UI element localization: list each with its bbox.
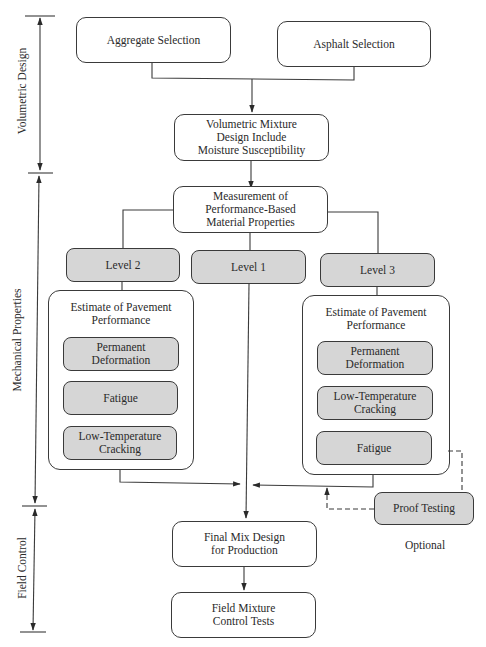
branch-level2: [123, 210, 174, 250]
volumetric-line-1: Volumetric Mixture: [198, 118, 306, 131]
phase-label-field-control: Field Control: [16, 533, 28, 603]
left-low-temperature-node: Low-Temperature Cracking: [63, 426, 177, 460]
phase-label-volumetric-design: Volumetric Design: [16, 46, 28, 136]
level-3-label: Level 3: [360, 264, 395, 277]
left-item-3-line-1: Low-Temperature: [79, 430, 162, 443]
aggregate-selection-node: Aggregate Selection: [76, 17, 231, 63]
left-item-1-line-1: Permanent: [92, 341, 151, 354]
level-3-node: Level 3: [320, 253, 435, 287]
left-item-1-line-2: Deformation: [92, 354, 151, 367]
branch-level3: [328, 212, 378, 255]
left-item-2-label: Fatigue: [103, 392, 138, 405]
proof-testing-node: Proof Testing: [374, 492, 474, 525]
asphalt-selection-node: Asphalt Selection: [277, 21, 431, 67]
dashed-proof-to-merge: [327, 488, 374, 509]
right-group-title-2: Performance: [326, 319, 427, 332]
right-group-title-1: Estimate of Pavement: [326, 306, 427, 319]
right-item-1-line-1: Permanent: [346, 345, 405, 358]
right-fatigue-node: Fatigue: [316, 431, 432, 465]
proof-testing-label: Proof Testing: [393, 502, 455, 515]
volumetric-mixture-node: Volumetric Mixture Design Include Moistu…: [174, 114, 329, 161]
left-group-title-1: Estimate of Pavement: [71, 301, 172, 314]
right-low-temperature-node: Low-Temperature Cracking: [317, 386, 433, 420]
right-item-2-line-2: Cracking: [334, 403, 417, 416]
final-mix-line-1: Final Mix Design: [204, 531, 285, 544]
left-permanent-deformation-node: Permanent Deformation: [63, 337, 179, 371]
volumetric-line-3: Moisture Susceptibility: [198, 144, 306, 157]
measurement-node: Measurement of Performance-Based Materia…: [173, 186, 328, 233]
final-mix-design-node: Final Mix Design for Production: [172, 521, 317, 567]
phase-arrow-mechanical: [35, 176, 39, 503]
level-1-label: Level 1: [231, 261, 266, 274]
arrow-right-to-merge: [253, 474, 373, 487]
final-mix-line-2: for Production: [204, 544, 285, 557]
field-mixture-tests-node: Field Mixture Control Tests: [171, 592, 316, 638]
phase-arrow-field: [33, 509, 35, 630]
field-tests-line-2: Control Tests: [212, 615, 276, 628]
dashed-right-group-to-proof: [448, 451, 462, 494]
left-item-3-line-2: Cracking: [79, 443, 162, 456]
measurement-line-2: Performance-Based: [205, 203, 296, 216]
field-tests-line-1: Field Mixture: [212, 602, 276, 615]
left-fatigue-node: Fatigue: [63, 381, 178, 415]
measurement-line-3: Material Properties: [205, 216, 296, 229]
level-2-node: Level 2: [66, 248, 180, 282]
level-1-node: Level 1: [191, 250, 306, 284]
right-item-2-line-1: Low-Temperature: [334, 390, 417, 403]
aggregate-selection-label: Aggregate Selection: [107, 34, 201, 47]
level-2-label: Level 2: [106, 259, 141, 272]
right-item-3-label: Fatigue: [357, 442, 392, 455]
left-group-title-2: Performance: [71, 314, 172, 327]
asphalt-selection-label: Asphalt Selection: [313, 38, 394, 51]
phase-label-mechanical-properties: Mechanical Properties: [11, 285, 23, 395]
optional-label: Optional: [390, 539, 460, 551]
volumetric-line-2: Design Include: [198, 131, 306, 144]
arrow-left-to-merge: [120, 469, 240, 484]
arrow-level1-to-final: [246, 284, 249, 518]
right-permanent-deformation-node: Permanent Deformation: [317, 341, 433, 375]
measurement-line-1: Measurement of: [205, 190, 296, 203]
right-item-1-line-2: Deformation: [346, 358, 405, 371]
